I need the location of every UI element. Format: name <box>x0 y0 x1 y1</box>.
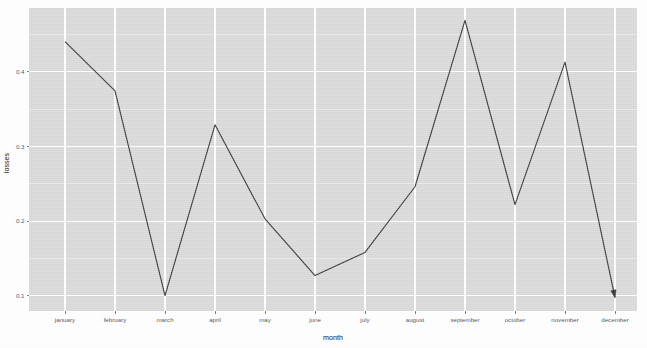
x-tick-label: february <box>104 316 128 323</box>
x-tick-label: january <box>54 316 76 323</box>
x-tick-label: october <box>505 316 526 323</box>
x-tick-label: november <box>551 316 579 323</box>
x-tick-label: september <box>450 316 479 323</box>
y-tick-label: 0.4 <box>16 68 25 75</box>
x-tick-label: august <box>406 316 425 323</box>
x-axis-title: month <box>323 333 343 342</box>
x-axis-tick-labels: januaryfebruarymarchaprilmayjunejulyaugu… <box>54 316 629 323</box>
line-chart: 0.10.20.30.4 januaryfebruarymarchaprilma… <box>0 0 647 348</box>
chart-container: 0.10.20.30.4 januaryfebruarymarchaprilma… <box>0 0 647 348</box>
y-tick-label: 0.1 <box>16 292 25 299</box>
y-axis-ticks <box>27 72 30 296</box>
x-axis-ticks <box>65 311 615 314</box>
y-tick-label: 0.3 <box>16 143 25 150</box>
x-tick-label: june <box>308 316 321 323</box>
x-tick-label: march <box>156 316 174 323</box>
x-tick-label: april <box>209 316 221 323</box>
y-axis-title: losses <box>2 152 11 173</box>
x-tick-label: may <box>259 316 272 323</box>
y-tick-label: 0.2 <box>16 217 25 224</box>
y-axis-tick-labels: 0.10.20.30.4 <box>16 68 25 299</box>
x-tick-label: july <box>359 316 370 323</box>
plot-panel-background <box>29 8 637 311</box>
x-tick-label: december <box>601 316 629 323</box>
